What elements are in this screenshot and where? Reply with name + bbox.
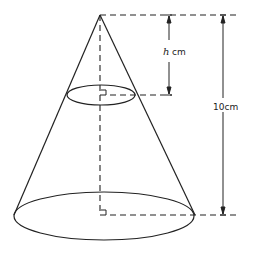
total-height-label: 10cm	[213, 102, 238, 112]
right-angle-mark-bottom	[101, 210, 106, 215]
cone-diagram: h cm 10cm	[0, 0, 253, 257]
base-ellipse	[14, 192, 194, 240]
h-unit-label: cm	[172, 47, 186, 57]
h-label: h	[163, 46, 169, 57]
cone-right-side	[100, 15, 195, 215]
cone-left-side	[14, 15, 100, 215]
total-height-dimension	[220, 15, 226, 215]
right-angle-mark-top	[101, 90, 106, 95]
